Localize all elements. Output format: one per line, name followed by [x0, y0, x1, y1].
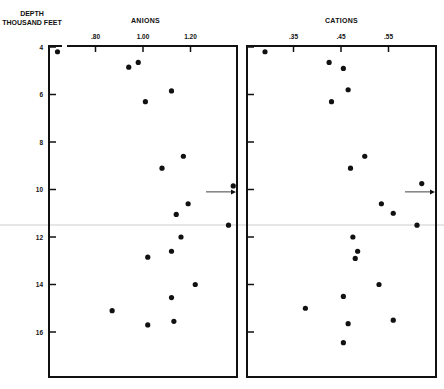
cations-plot-frame — [247, 46, 436, 377]
depth-profile-chart: .801.001.20.35.45.5546810121416 — [0, 0, 444, 389]
anions-data-point — [136, 60, 141, 65]
anions-data-point — [55, 49, 60, 54]
anions-data-point — [226, 223, 231, 228]
anions-data-point — [181, 154, 186, 159]
cations-data-point — [362, 154, 367, 159]
anions-data-point — [169, 88, 174, 93]
cations-data-point — [414, 223, 419, 228]
cations-data-point — [329, 99, 334, 104]
cations-data-point — [379, 201, 384, 206]
cations-data-point — [341, 66, 346, 71]
cations-x-tick-label: .55 — [384, 33, 393, 40]
anions-data-point — [171, 319, 176, 324]
y-tick-label: 16 — [36, 329, 44, 336]
cations-data-point — [350, 234, 355, 239]
frame-gap — [62, 45, 67, 48]
cations-data-point — [419, 181, 424, 186]
anions-plot-frame — [49, 46, 237, 377]
anions-x-tick-label: 1.00 — [137, 33, 150, 40]
y-tick-label: 4 — [39, 44, 43, 51]
cations-arrow-icon — [430, 189, 435, 194]
cations-data-point — [348, 166, 353, 171]
anions-data-point — [143, 99, 148, 104]
y-tick-label: 8 — [39, 139, 43, 146]
cations-data-point — [391, 211, 396, 216]
cations-data-point — [346, 87, 351, 92]
anions-data-point — [193, 282, 198, 287]
cations-data-point — [376, 282, 381, 287]
cations-data-point — [346, 321, 351, 326]
anions-arrow-icon — [231, 189, 236, 194]
y-tick-label: 14 — [36, 281, 44, 288]
anions-data-point — [231, 183, 236, 188]
cations-data-point — [262, 49, 267, 54]
anions-data-point — [145, 255, 150, 260]
cations-data-point — [353, 256, 358, 261]
anions-data-point — [174, 212, 179, 217]
anions-data-point — [126, 65, 131, 70]
anions-data-point — [145, 322, 150, 327]
cations-x-tick-label: .45 — [336, 33, 345, 40]
cations-data-point — [355, 249, 360, 254]
y-tick-label: 6 — [39, 91, 43, 98]
cations-x-tick-label: .35 — [289, 33, 298, 40]
cations-data-point — [341, 340, 346, 345]
anions-x-tick-label: 1.20 — [184, 33, 197, 40]
cations-data-point — [303, 306, 308, 311]
anions-data-point — [178, 234, 183, 239]
cations-data-point — [391, 318, 396, 323]
cations-data-point — [327, 60, 332, 65]
y-tick-label: 12 — [36, 234, 44, 241]
y-tick-label: 10 — [36, 186, 44, 193]
anions-x-tick-label: .80 — [91, 33, 100, 40]
cations-data-point — [341, 294, 346, 299]
anions-data-point — [169, 249, 174, 254]
anions-data-point — [110, 308, 115, 313]
anions-data-point — [169, 295, 174, 300]
anions-data-point — [186, 201, 191, 206]
anions-data-point — [159, 166, 164, 171]
